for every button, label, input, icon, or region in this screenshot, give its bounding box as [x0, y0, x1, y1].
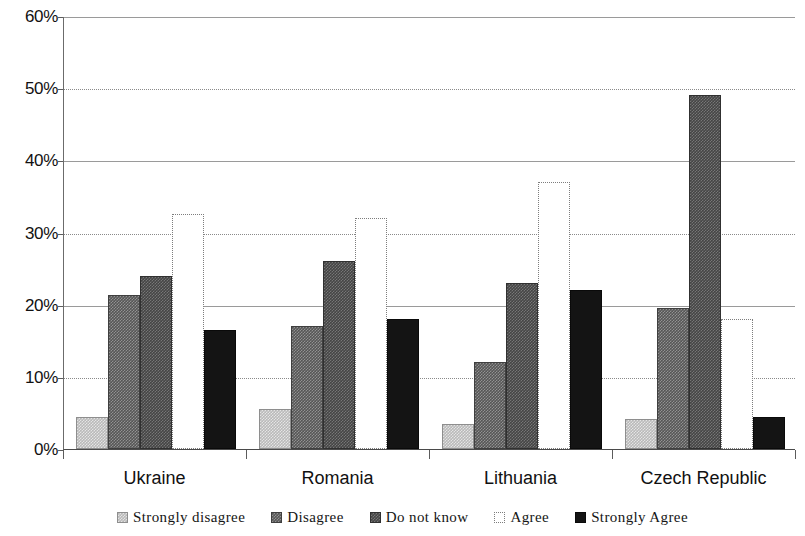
y-axis-tick-label: 10% [2, 368, 58, 388]
bar [108, 295, 140, 449]
bar [323, 261, 355, 449]
bar [657, 308, 689, 449]
bar [506, 283, 538, 449]
plot-area [63, 17, 795, 450]
legend-swatch-icon [370, 512, 381, 523]
x-axis-tick-mark [429, 450, 430, 459]
bar [259, 409, 291, 449]
x-axis-tick-mark [63, 450, 64, 459]
x-axis-category-label: Czech Republic [640, 468, 766, 489]
bar-group [613, 17, 796, 449]
bar-group [247, 17, 430, 449]
legend-label: Strongly Agree [591, 509, 688, 526]
legend-item: Agree [494, 509, 549, 526]
bars-layer [64, 17, 795, 449]
y-axis-tick-label: 50% [2, 79, 58, 99]
legend-item: Do not know [370, 509, 469, 526]
y-axis-tick-label: 30% [2, 224, 58, 244]
chart-legend: Strongly disagreeDisagreeDo not knowAgre… [0, 504, 805, 530]
legend-item: Strongly disagree [117, 509, 245, 526]
x-axis-category-label: Ukraine [123, 468, 185, 489]
bar [538, 182, 570, 449]
bar [355, 218, 387, 449]
bar [474, 362, 506, 449]
legend-label: Disagree [287, 509, 344, 526]
bar [442, 424, 474, 449]
bar-group [64, 17, 247, 449]
bar [76, 417, 108, 449]
legend-swatch-icon [575, 512, 586, 523]
legend-label: Agree [510, 509, 549, 526]
bar [625, 419, 657, 449]
y-axis-tick-label: 40% [2, 151, 58, 171]
x-axis-tick-mark [246, 450, 247, 459]
bar-chart: 0%10%20%30%40%50%60% UkraineRomaniaLithu… [0, 0, 805, 536]
bar-group [430, 17, 613, 449]
bar [172, 214, 204, 449]
legend-item: Disagree [271, 509, 344, 526]
x-axis-tick-mark [795, 450, 796, 459]
bar [140, 276, 172, 449]
bar [387, 319, 419, 449]
y-axis-tick-label: 20% [2, 296, 58, 316]
legend-swatch-icon [494, 512, 505, 523]
bar [204, 330, 236, 449]
x-axis-category-label: Romania [301, 468, 373, 489]
legend-label: Do not know [386, 509, 469, 526]
x-axis-tick-mark [612, 450, 613, 459]
bar [689, 95, 721, 449]
x-axis-category-label: Lithuania [484, 468, 557, 489]
legend-label: Strongly disagree [133, 509, 245, 526]
legend-item: Strongly Agree [575, 509, 688, 526]
legend-swatch-icon [117, 512, 128, 523]
y-axis-tick-label: 60% [2, 7, 58, 27]
bar [721, 319, 753, 449]
bar [753, 417, 785, 449]
bar [570, 290, 602, 449]
bar [291, 326, 323, 449]
y-axis-tick-label: 0% [2, 440, 58, 460]
legend-swatch-icon [271, 512, 282, 523]
